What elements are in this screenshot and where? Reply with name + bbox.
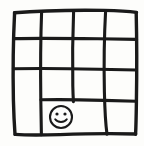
row-divider-3 [41, 100, 136, 102]
border-bottom-edge [15, 134, 135, 136]
smiley-right-eye-icon [63, 112, 66, 115]
smiley-left-eye-icon [55, 112, 58, 115]
hand-drawn-grid-figure [0, 0, 144, 146]
row-divider-1 [14, 38, 137, 39]
row-divider-2 [13, 69, 136, 70]
column-divider-2 [73, 11, 74, 101]
column-divider-1 [41, 12, 42, 135]
border-left-edge [13, 13, 15, 135]
border-right-edge [136, 13, 137, 135]
drawing-canvas: Freehand square grid, four by four, with… [0, 0, 144, 146]
